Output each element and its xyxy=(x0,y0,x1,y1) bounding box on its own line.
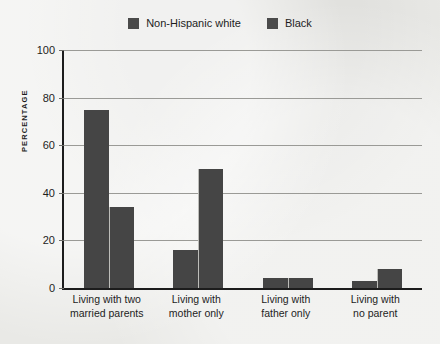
x-axis-label: Living with twomarried parents xyxy=(62,293,152,320)
bar xyxy=(377,269,402,288)
x-axis-label: Living withmother only xyxy=(152,293,242,320)
bar-group xyxy=(64,50,154,288)
bar xyxy=(109,207,134,288)
bar xyxy=(263,278,288,288)
legend-label-series-2: Black xyxy=(285,18,312,29)
x-axis-label-line: mother only xyxy=(152,307,242,321)
bar-group xyxy=(333,50,423,288)
bar-group xyxy=(243,50,333,288)
bar xyxy=(84,110,109,289)
x-axis-label-line: father only xyxy=(241,307,331,321)
y-axis-tick-label: 0 xyxy=(49,282,55,294)
chart-legend: Non-Hispanic white Black xyxy=(0,18,440,29)
legend-swatch-icon-series-2 xyxy=(267,18,278,29)
y-axis-tick-label: 100 xyxy=(37,44,55,56)
x-axis-label-line: Living with xyxy=(241,293,331,307)
x-axis-label-line: no parent xyxy=(331,307,421,321)
bar xyxy=(288,278,313,288)
legend-item-black: Black xyxy=(267,18,312,29)
x-axis-labels: Living with twomarried parentsLiving wit… xyxy=(62,293,420,339)
legend-item-non-hispanic-white: Non-Hispanic white xyxy=(128,18,241,29)
plot-area: 020406080100 xyxy=(62,50,422,290)
x-axis-label: Living withno parent xyxy=(331,293,421,320)
x-axis-label-line: Living with xyxy=(331,293,421,307)
legend-swatch-icon-series-1 xyxy=(128,18,139,29)
y-axis-tick-label: 60 xyxy=(43,139,55,151)
x-axis-label-line: Living with xyxy=(152,293,242,307)
y-axis-tick-label: 20 xyxy=(43,234,55,246)
x-axis-label-line: Living with two xyxy=(62,293,152,307)
bar-group xyxy=(154,50,244,288)
y-axis-tick-label: 80 xyxy=(43,92,55,104)
x-axis-label: Living withfather only xyxy=(241,293,331,320)
bar xyxy=(173,250,198,288)
bars-layer xyxy=(64,50,422,288)
legend-label-series-1: Non-Hispanic white xyxy=(146,18,241,29)
bar xyxy=(198,169,223,288)
x-axis-label-line: married parents xyxy=(62,307,152,321)
y-axis-tick-label: 40 xyxy=(43,187,55,199)
y-axis-title: PERCENTAGE xyxy=(20,89,29,152)
bar xyxy=(352,281,377,288)
bar-chart: Non-Hispanic white Black PERCENTAGE 0204… xyxy=(0,0,440,344)
y-axis-tick xyxy=(59,288,64,289)
